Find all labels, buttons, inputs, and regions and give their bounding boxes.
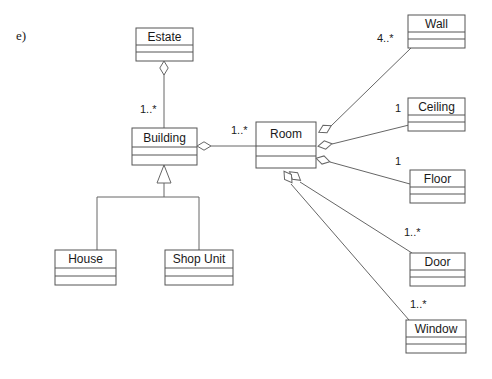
generalization-arrowhead — [157, 165, 171, 183]
class-boxes: EstateBuildingHouseShop UnitRoomWallCeil… — [55, 15, 466, 353]
aggregation-diamond-room-wall — [317, 122, 333, 136]
association-line-room-door — [300, 182, 412, 253]
class-name-label: Floor — [424, 172, 451, 186]
class-box-wall[interactable]: Wall — [408, 15, 465, 48]
class-name-label: Building — [143, 131, 186, 145]
aggregation-diamond-room-ceiling — [317, 140, 332, 151]
class-box-room[interactable]: Room — [256, 122, 316, 168]
multiplicity-label-estate-building: 1..* — [140, 103, 157, 115]
multiplicity-label-room-ceiling: 1 — [395, 102, 401, 114]
association-line-room-window — [291, 184, 409, 320]
class-box-shopunit[interactable]: Shop Unit — [165, 250, 233, 285]
class-box-building[interactable]: Building — [132, 128, 197, 165]
class-box-window[interactable]: Window — [406, 320, 466, 353]
class-box-house[interactable]: House — [55, 250, 116, 285]
multiplicity-label-room-wall: 4..* — [377, 32, 394, 44]
multiplicity-label-room-window: 1..* — [410, 298, 427, 310]
aggregation-diamond-building-room — [197, 142, 211, 150]
association-line-room-wall — [331, 48, 411, 126]
class-name-label: House — [68, 252, 103, 266]
uml-class-diagram: e) EstateBuildingHouseShop UnitRoomWallC… — [0, 0, 492, 379]
class-name-label: Ceiling — [418, 100, 455, 114]
multiplicity-label-building-room: 1..* — [231, 124, 248, 136]
class-box-door[interactable]: Door — [410, 253, 465, 286]
class-name-label: Estate — [147, 30, 181, 44]
aggregation-diamond-estate-building — [160, 61, 168, 75]
class-name-label: Window — [415, 322, 458, 336]
class-box-estate[interactable]: Estate — [136, 28, 193, 61]
generalization-link — [97, 165, 199, 250]
association-line-room-ceiling — [332, 125, 409, 144]
multiplicity-label-room-floor: 1 — [395, 155, 401, 167]
class-box-floor[interactable]: Floor — [410, 170, 465, 203]
class-name-label: Wall — [425, 17, 448, 31]
class-name-label: Room — [270, 127, 302, 141]
class-name-label: Shop Unit — [173, 252, 226, 266]
class-name-label: Door — [424, 255, 450, 269]
diagram-canvas: e) EstateBuildingHouseShop UnitRoomWallC… — [0, 0, 492, 379]
class-box-ceiling[interactable]: Ceiling — [408, 98, 465, 131]
figure-label: e) — [16, 28, 26, 43]
multiplicity-label-room-door: 1..* — [404, 226, 421, 238]
aggregation-diamond-room-floor — [315, 154, 331, 166]
